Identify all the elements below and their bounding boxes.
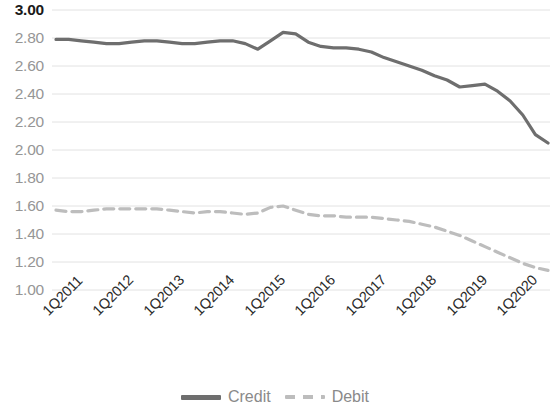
line-chart: 3.002.802.602.402.202.001.801.601.401.20… bbox=[0, 0, 550, 412]
legend-item-debit[interactable]: Debit bbox=[285, 389, 369, 405]
series-line-debit bbox=[56, 206, 548, 270]
legend-swatch-credit-icon bbox=[181, 395, 221, 400]
gridlines bbox=[52, 10, 550, 290]
y-axis-tick-label: 1.00 bbox=[15, 282, 44, 298]
series-lines bbox=[56, 32, 548, 270]
chart-legend: Credit Debit bbox=[0, 382, 550, 412]
y-axis-tick-label: 1.40 bbox=[15, 226, 44, 242]
plot-area bbox=[52, 0, 550, 300]
y-axis-tick-label: 1.80 bbox=[15, 170, 44, 186]
legend-swatch-debit-icon bbox=[285, 395, 325, 399]
y-axis-tick-label: 2.00 bbox=[15, 142, 44, 158]
y-axis-tick-label: 3.00 bbox=[15, 2, 44, 18]
y-axis-tick-label: 2.60 bbox=[15, 58, 44, 74]
y-axis: 3.002.802.602.402.202.001.801.601.401.20… bbox=[0, 0, 48, 300]
series-line-credit bbox=[56, 32, 548, 143]
chart-canvas bbox=[52, 0, 550, 300]
legend-label-credit: Credit bbox=[228, 389, 271, 405]
y-axis-tick-label: 2.80 bbox=[15, 30, 44, 46]
y-axis-tick-label: 1.20 bbox=[15, 254, 44, 270]
y-axis-tick-label: 2.40 bbox=[15, 86, 44, 102]
y-axis-tick-label: 2.20 bbox=[15, 114, 44, 130]
x-axis: 1Q20111Q20121Q20131Q20141Q20151Q20161Q20… bbox=[52, 300, 550, 378]
legend-label-debit: Debit bbox=[332, 389, 369, 405]
legend-item-credit[interactable]: Credit bbox=[181, 389, 271, 405]
y-axis-tick-label: 1.60 bbox=[15, 198, 44, 214]
